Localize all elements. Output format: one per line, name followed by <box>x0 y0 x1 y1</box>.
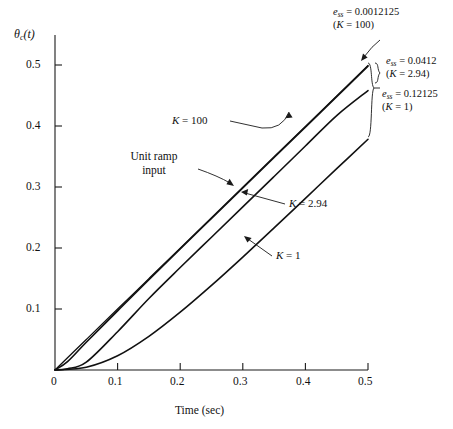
ess-k1-value: 0.12125 <box>404 88 438 99</box>
ess-k100-eq: = <box>344 6 355 17</box>
ess-k1-eq: = <box>393 88 404 99</box>
x-tick-label-0.2: 0.2 <box>170 375 184 389</box>
ess-k1-line1: ess = 0.12125 <box>382 88 438 101</box>
k-100-eq: = <box>179 114 191 126</box>
y-tick-label-0.1: 0.1 <box>26 302 40 316</box>
ess-k294-cond-var: K <box>390 68 397 79</box>
curve-k-294 <box>55 91 368 370</box>
curve-label-k-1: K = 1 <box>276 249 301 262</box>
ess-k294-value: 0.0412 <box>408 55 437 66</box>
unit-ramp-line2: input <box>110 164 198 178</box>
leader-k-100 <box>230 121 262 128</box>
k-294-eq: = <box>296 197 308 209</box>
x-axis-title: Time (sec) <box>175 404 224 418</box>
annotation-ess-k-100: ess = 0.0012125 (K = 100) <box>333 6 399 32</box>
x-tick-label-0.1: 0.1 <box>108 375 122 389</box>
annotation-ess-k-1: ess = 0.12125 (K = 1) <box>382 88 438 114</box>
curve-label-k-100: K = 100 <box>172 114 208 127</box>
ramp-response-figure: θc(t) 0.5 0.4 0.3 0.2 0.1 0 0.1 0.2 0.3 … <box>0 0 453 429</box>
ess-k100-cond-eq: = <box>344 19 355 30</box>
ess-k1-cond-var: K <box>386 101 393 112</box>
brace-ess-k1 <box>368 63 374 137</box>
ess-k100-line1: ess = 0.0012125 <box>333 6 399 19</box>
ess-k294-eq: = <box>397 55 408 66</box>
y-tick-marks <box>55 65 62 309</box>
x-tick-label-0: 0 <box>51 375 57 389</box>
unit-ramp-line1: Unit ramp <box>110 150 198 164</box>
ess-k100-value: 0.0012125 <box>355 6 400 17</box>
leader-unit-ramp <box>198 169 230 183</box>
ess-k294-line1: ess = 0.0412 <box>386 55 437 68</box>
y-tick-label-0.2: 0.2 <box>26 241 40 255</box>
k-1-eq: = <box>283 249 295 261</box>
x-tick-label-0.4: 0.4 <box>296 375 310 389</box>
y-tick-label-0.5: 0.5 <box>26 58 40 72</box>
leader-k-100-arc <box>262 112 289 128</box>
arrowhead-ess-k100 <box>361 53 368 61</box>
arrowhead-k-294 <box>241 189 248 195</box>
y-tick-label-0.3: 0.3 <box>26 180 40 194</box>
ess-k294-cond-eq: = <box>397 68 408 79</box>
k-1-value: 1 <box>295 249 301 261</box>
arrowhead-unit-ramp <box>226 179 234 186</box>
k-100-value: 100 <box>191 114 208 126</box>
ess-k100-cond-value: 100 <box>355 19 371 30</box>
y-tick-label-0.4: 0.4 <box>26 119 40 133</box>
annotation-ess-k-294: ess = 0.0412 (K = 2.94) <box>386 55 437 81</box>
arrowhead-k-1 <box>244 236 252 243</box>
ess-k294-cond-value: 2.94 <box>408 68 426 79</box>
ess-k100-line2: (K = 100) <box>333 19 399 31</box>
ess-k1-cond-eq: = <box>393 101 404 112</box>
x-tick-marks <box>118 363 368 370</box>
y-axis-label: θc(t) <box>14 27 35 42</box>
curve-label-k-294: K = 2.94 <box>289 197 327 210</box>
y-axis-tail: (t) <box>23 27 34 41</box>
ess-k1-line2: (K = 1) <box>382 101 438 113</box>
x-tick-label-0.5: 0.5 <box>358 375 372 389</box>
leader-ess-k100 <box>364 40 380 57</box>
x-tick-label-0.3: 0.3 <box>233 375 247 389</box>
curve-label-unit-ramp: Unit ramp input <box>110 150 198 178</box>
arrowhead-k-100 <box>286 112 293 118</box>
brace-ess-k294 <box>375 63 380 83</box>
ess-k100-cond-var: K <box>337 19 344 30</box>
ess-k294-line2: (K = 2.94) <box>386 68 437 80</box>
k-294-value: 2.94 <box>308 197 327 209</box>
